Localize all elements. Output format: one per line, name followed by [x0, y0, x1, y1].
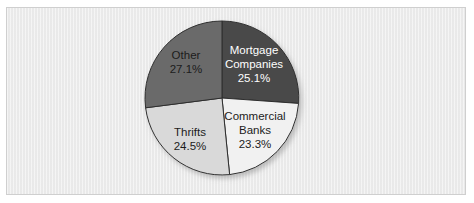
- pie-svg: Mortgage Companies 25.1% Commercial Bank…: [0, 0, 474, 203]
- thrifts-label-line1: Thrifts: [174, 126, 206, 138]
- other-label-line1: Other: [172, 49, 201, 61]
- mortgage-value: 25.1%: [238, 72, 271, 84]
- commercial-label-line1: Commercial: [224, 110, 285, 122]
- commercial-label-line2: Banks: [239, 124, 271, 136]
- mortgage-label-line1: Mortgage: [230, 44, 279, 56]
- other-value: 27.1%: [170, 63, 203, 75]
- figure-root: Mortgage Companies 25.1% Commercial Bank…: [0, 0, 474, 203]
- commercial-value: 23.3%: [239, 138, 272, 150]
- pie-chart: Mortgage Companies 25.1% Commercial Bank…: [0, 0, 474, 203]
- thrifts-value: 24.5%: [174, 140, 207, 152]
- mortgage-label-line2: Companies: [225, 58, 283, 70]
